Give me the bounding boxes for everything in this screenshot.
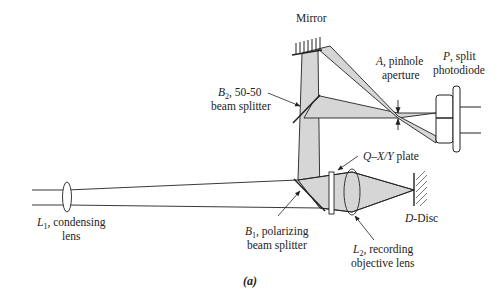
- l1-condensing-lens: [63, 182, 72, 212]
- a-label-line2: aperture: [382, 69, 420, 82]
- split-photodiode: [436, 86, 481, 152]
- q-label: Q–X/Y plate: [363, 150, 419, 163]
- q-leader-arrow: [338, 156, 358, 170]
- b1-label-line1: B1, polarizing: [245, 225, 309, 240]
- optical-pickup-diagram: Mirror B2, 50-50 beam splitter A, pinhol…: [0, 0, 504, 290]
- l2-label-line1: L2, recording: [352, 243, 413, 258]
- b2-label-line1: B2, 50-50: [218, 86, 262, 101]
- l2-leader-arrow: [355, 216, 374, 240]
- l1-label-line2: lens: [62, 230, 81, 242]
- l1-label-line1: L1, condensing: [36, 216, 106, 231]
- b1-leader-arrow: [278, 191, 300, 216]
- b2-to-detector-beam: [304, 96, 436, 118]
- b1-label-line2: beam splitter: [247, 239, 307, 252]
- b2-label-line2: beam splitter: [211, 100, 271, 113]
- b2-leader-arrow: [268, 93, 300, 106]
- disc: [414, 171, 427, 206]
- l2-label-line2: objective lens: [351, 257, 415, 270]
- p-label-line2: photodiode: [433, 64, 485, 77]
- p-label-line1: P, split: [442, 50, 476, 63]
- figure-caption: (a): [243, 274, 257, 288]
- beam-to-disc: [298, 172, 414, 212]
- a-label-line1: A, pinhole: [375, 55, 423, 68]
- q-xy-plate: [329, 172, 334, 214]
- d-label: D-Disc: [404, 212, 438, 224]
- mirror-label: Mirror: [296, 12, 327, 24]
